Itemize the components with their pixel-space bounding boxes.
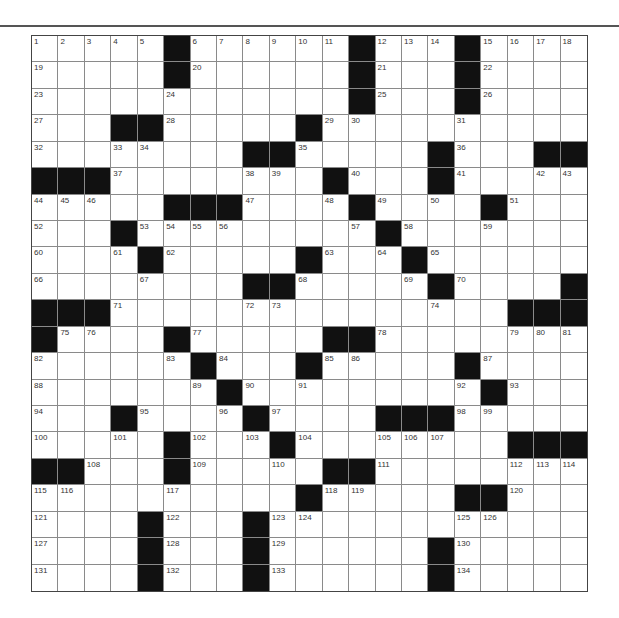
grid-cell[interactable]	[561, 115, 587, 141]
grid-cell[interactable]: 118	[323, 485, 349, 511]
grid-cell[interactable]: 32	[32, 142, 58, 168]
grid-cell[interactable]	[217, 274, 243, 300]
grid-cell[interactable]: 19	[32, 62, 58, 88]
grid-cell[interactable]	[138, 195, 164, 221]
grid-cell[interactable]: 91	[296, 380, 322, 406]
grid-cell[interactable]	[428, 62, 454, 88]
grid-cell[interactable]: 127	[32, 538, 58, 564]
grid-cell[interactable]: 87	[481, 353, 507, 379]
grid-cell[interactable]	[58, 62, 84, 88]
grid-cell[interactable]	[191, 274, 217, 300]
grid-cell[interactable]	[243, 89, 269, 115]
grid-cell[interactable]: 71	[111, 300, 137, 326]
grid-cell[interactable]: 43	[561, 168, 587, 194]
grid-cell[interactable]	[481, 538, 507, 564]
grid-cell[interactable]: 51	[508, 195, 534, 221]
grid-cell[interactable]: 13	[402, 36, 428, 62]
grid-cell[interactable]: 108	[85, 459, 111, 485]
grid-cell[interactable]	[270, 221, 296, 247]
grid-cell[interactable]: 96	[217, 406, 243, 432]
grid-cell[interactable]	[402, 353, 428, 379]
grid-cell[interactable]: 132	[164, 565, 190, 591]
grid-cell[interactable]: 6	[191, 36, 217, 62]
grid-cell[interactable]	[534, 89, 560, 115]
grid-cell[interactable]	[111, 195, 137, 221]
grid-cell[interactable]: 34	[138, 142, 164, 168]
grid-cell[interactable]: 113	[534, 459, 560, 485]
grid-cell[interactable]	[402, 459, 428, 485]
grid-cell[interactable]	[191, 247, 217, 273]
grid-cell[interactable]: 107	[428, 432, 454, 458]
grid-cell[interactable]	[508, 115, 534, 141]
grid-cell[interactable]: 72	[243, 300, 269, 326]
grid-cell[interactable]: 73	[270, 300, 296, 326]
grid-cell[interactable]: 112	[508, 459, 534, 485]
grid-cell[interactable]	[191, 168, 217, 194]
grid-cell[interactable]: 105	[376, 432, 402, 458]
grid-cell[interactable]: 64	[376, 247, 402, 273]
grid-cell[interactable]	[138, 62, 164, 88]
grid-cell[interactable]	[402, 89, 428, 115]
grid-cell[interactable]: 76	[85, 327, 111, 353]
grid-cell[interactable]	[111, 62, 137, 88]
grid-cell[interactable]	[481, 274, 507, 300]
grid-cell[interactable]: 45	[58, 195, 84, 221]
grid-cell[interactable]	[402, 142, 428, 168]
grid-cell[interactable]	[138, 327, 164, 353]
grid-cell[interactable]	[164, 380, 190, 406]
grid-cell[interactable]	[455, 195, 481, 221]
grid-cell[interactable]	[376, 142, 402, 168]
grid-cell[interactable]: 114	[561, 459, 587, 485]
grid-cell[interactable]: 11	[323, 36, 349, 62]
grid-cell[interactable]	[402, 565, 428, 591]
grid-cell[interactable]	[534, 406, 560, 432]
grid-cell[interactable]	[85, 142, 111, 168]
grid-cell[interactable]	[111, 485, 137, 511]
grid-cell[interactable]	[138, 485, 164, 511]
grid-cell[interactable]: 116	[58, 485, 84, 511]
grid-cell[interactable]: 106	[402, 432, 428, 458]
grid-cell[interactable]	[58, 380, 84, 406]
grid-cell[interactable]	[164, 300, 190, 326]
grid-cell[interactable]: 101	[111, 432, 137, 458]
grid-cell[interactable]	[243, 327, 269, 353]
grid-cell[interactable]: 36	[455, 142, 481, 168]
grid-cell[interactable]	[561, 195, 587, 221]
grid-cell[interactable]	[349, 300, 375, 326]
grid-cell[interactable]	[349, 538, 375, 564]
grid-cell[interactable]	[243, 459, 269, 485]
grid-cell[interactable]	[217, 115, 243, 141]
grid-cell[interactable]: 131	[32, 565, 58, 591]
grid-cell[interactable]	[111, 538, 137, 564]
grid-cell[interactable]: 75	[58, 327, 84, 353]
grid-cell[interactable]: 49	[376, 195, 402, 221]
grid-cell[interactable]	[85, 512, 111, 538]
grid-cell[interactable]	[402, 168, 428, 194]
grid-cell[interactable]: 15	[481, 36, 507, 62]
grid-cell[interactable]	[481, 432, 507, 458]
grid-cell[interactable]	[296, 300, 322, 326]
grid-cell[interactable]	[402, 485, 428, 511]
grid-cell[interactable]: 58	[402, 221, 428, 247]
grid-cell[interactable]	[561, 247, 587, 273]
grid-cell[interactable]: 53	[138, 221, 164, 247]
grid-cell[interactable]	[428, 221, 454, 247]
grid-cell[interactable]	[349, 406, 375, 432]
grid-cell[interactable]	[402, 195, 428, 221]
grid-cell[interactable]: 1	[32, 36, 58, 62]
grid-cell[interactable]	[323, 406, 349, 432]
grid-cell[interactable]	[191, 485, 217, 511]
grid-cell[interactable]	[111, 380, 137, 406]
grid-cell[interactable]: 78	[376, 327, 402, 353]
grid-cell[interactable]	[191, 142, 217, 168]
grid-cell[interactable]: 111	[376, 459, 402, 485]
grid-cell[interactable]	[508, 538, 534, 564]
grid-cell[interactable]	[402, 538, 428, 564]
grid-cell[interactable]	[111, 459, 137, 485]
grid-cell[interactable]: 119	[349, 485, 375, 511]
grid-cell[interactable]: 46	[85, 195, 111, 221]
grid-cell[interactable]	[58, 538, 84, 564]
grid-cell[interactable]	[508, 565, 534, 591]
grid-cell[interactable]: 99	[481, 406, 507, 432]
grid-cell[interactable]	[296, 221, 322, 247]
